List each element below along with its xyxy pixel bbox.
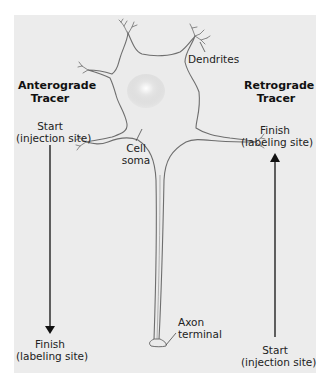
anterograde-finish-label: Finish (labeling site): [16, 338, 84, 362]
anterograde-start-line2: (injection site): [16, 132, 84, 144]
retrograde-start-line2: (injection site): [241, 356, 309, 368]
anterograde-heading: Anterograde Tracer: [18, 79, 82, 105]
cell-soma-label: Cell soma: [118, 142, 154, 166]
anterograde-heading-line2: Tracer: [18, 92, 82, 105]
anterograde-start-line1: Start: [16, 120, 84, 132]
retrograde-arrow: [270, 153, 280, 337]
retrograde-start-line1: Start: [241, 344, 309, 356]
axon-terminal-line1: Axon: [178, 316, 222, 328]
neuron-diagram: [0, 0, 327, 385]
anterograde-start-label: Start (injection site): [16, 120, 84, 144]
anterograde-finish-line2: (labeling site): [16, 350, 84, 362]
cell-soma-line2: soma: [118, 154, 154, 166]
axon-terminal-leader: [166, 333, 176, 345]
anterograde-finish-line1: Finish: [16, 338, 84, 350]
retrograde-finish-line1: Finish: [241, 124, 309, 136]
axon-terminal-line2: terminal: [178, 328, 222, 340]
axon-terminal-label: Axon terminal: [178, 316, 222, 340]
anterograde-heading-line1: Anterograde: [18, 79, 82, 92]
retrograde-heading-line1: Retrograde: [244, 79, 308, 92]
cell-soma-line1: Cell: [118, 142, 154, 154]
dendrites-label: Dendrites: [188, 53, 239, 65]
retrograde-finish-line2: (labeling site): [241, 136, 309, 148]
retrograde-finish-label: Finish (labeling site): [241, 124, 309, 148]
neuron: [86, 33, 255, 347]
axon-terminal-shape: [150, 339, 167, 347]
nucleus: [127, 74, 165, 108]
anterograde-arrow: [45, 145, 55, 334]
retrograde-start-label: Start (injection site): [241, 344, 309, 368]
cell-soma-shape: [86, 33, 255, 340]
retrograde-heading-line2: Tracer: [244, 92, 308, 105]
retrograde-heading: Retrograde Tracer: [244, 79, 308, 105]
